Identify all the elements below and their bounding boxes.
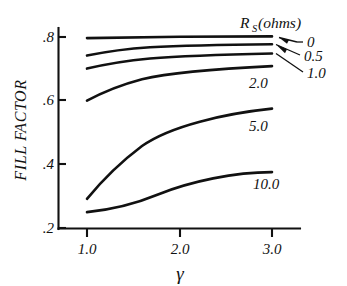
y-tick-label-0.4: .4 [43,156,55,172]
curve-rs-0 [87,36,272,38]
legend-title-units: (ohms) [258,14,301,32]
curve-rs-5.0 [87,109,272,199]
fill-factor-chart: .8 .6 .4 .2 1.0 2.0 3.0 γ FILL FACTOR [0,0,347,286]
x-tick-label-1.0: 1.0 [78,241,97,257]
curve-label-rs-5.0: 5.0 [249,118,268,134]
y-tick-label-0.8: .8 [43,29,55,45]
leader-lines [276,38,303,73]
legend-title-R: R [239,14,250,31]
x-axis-ticks [87,229,272,237]
curve-label-rs-10.0: 10.0 [253,176,280,192]
leader-rs-1.0 [276,54,303,73]
x-tick-label-2.0: 2.0 [171,241,190,257]
chart-svg: .8 .6 .4 .2 1.0 2.0 3.0 γ FILL FACTOR [0,0,347,286]
y-tick-label-0.6: .6 [43,92,55,108]
y-tick-label-0.2: .2 [43,220,55,236]
curve-label-rs-0.5: 0.5 [304,48,323,64]
x-tick-label-3.0: 3.0 [262,241,282,257]
curve-rs-10.0 [87,172,272,212]
legend-heading: R S (ohms) [239,14,301,34]
curve-label-rs-2.0: 2.0 [249,75,268,91]
curve-rs-2.0 [87,66,272,101]
curves-group [87,36,272,212]
curve-label-rs-1.0: 1.0 [307,65,326,81]
y-axis-title: FILL FACTOR [12,79,29,181]
x-axis-title: γ [176,263,184,284]
arrowhead-rs-0.5 [276,45,287,54]
